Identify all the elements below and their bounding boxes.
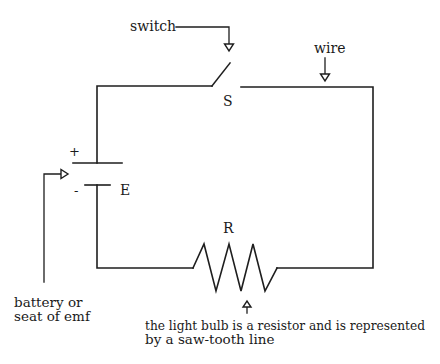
wire-callout — [321, 58, 330, 81]
switch-symbol-label: S — [223, 93, 233, 109]
circuit-diagram: switch wire S + - E R battery or seat of… — [0, 0, 440, 364]
arrow-down-icon — [225, 44, 234, 51]
wire-right — [241, 87, 373, 268]
battery-symbol-label: E — [120, 182, 130, 198]
battery-plus-label: + — [69, 144, 80, 159]
resistor-callout — [243, 301, 251, 313]
arrow-up-icon — [243, 301, 251, 307]
wire-callout-label: wire — [314, 40, 345, 56]
arrow-down-icon — [321, 74, 330, 81]
resistor-symbol-label: R — [223, 220, 234, 236]
wire-left-top — [97, 86, 212, 163]
switch-callout-label: switch — [130, 18, 176, 34]
switch-callout — [176, 27, 234, 51]
arrow-right-icon — [61, 170, 68, 179]
resistor-zigzag — [193, 244, 277, 291]
wire-left-bottom — [97, 185, 193, 268]
battery-minus-label: - — [74, 183, 78, 198]
resistor-callout-line2: by a saw-tooth line — [145, 331, 274, 347]
battery-callout — [44, 170, 68, 283]
switch-blade — [212, 63, 230, 86]
battery-callout-line2: seat of emf — [14, 308, 91, 324]
